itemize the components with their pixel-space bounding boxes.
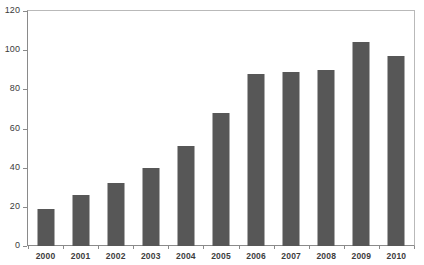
bar [248, 74, 265, 246]
x-axis-tick-mark [203, 246, 204, 249]
bar [283, 72, 300, 246]
bar [177, 146, 194, 246]
x-axis-tick: 2005 [203, 246, 238, 265]
bar-slot [203, 11, 238, 246]
x-axis-tick-mark [414, 246, 415, 249]
bar-slot [63, 11, 98, 246]
x-axis-tick-mark [309, 246, 310, 249]
x-axis-tick-label: 2010 [379, 251, 414, 262]
bar [37, 209, 54, 246]
x-axis-tick-label: 2008 [309, 251, 344, 262]
y-axis-tick-mark [23, 50, 27, 51]
x-axis-tick: 2000 [28, 246, 63, 265]
x-axis-tick-label: 2002 [98, 251, 133, 262]
bar [388, 56, 405, 246]
x-axis-tick-label: 2005 [203, 251, 238, 262]
x-axis-tick-label: 2003 [133, 251, 168, 262]
x-axis-tick-mark [133, 246, 134, 249]
bar [353, 42, 370, 246]
y-axis-tick-label: 60 [10, 123, 20, 134]
bar-slot [168, 11, 203, 246]
bar [318, 70, 335, 246]
bar-slot [344, 11, 379, 246]
x-axis-tick-mark [239, 246, 240, 249]
x-axis-tick: 2006 [239, 246, 274, 265]
y-axis-tick-label: 80 [10, 83, 20, 94]
bar-slot [309, 11, 344, 246]
x-axis-tick: 2009 [344, 246, 379, 265]
y-axis-tick-mark [23, 168, 27, 169]
x-axis-tick-label: 2006 [239, 251, 274, 262]
x-axis-tick: 2008 [309, 246, 344, 265]
x-axis-tick-mark [168, 246, 169, 249]
x-axis-tick: 2010 [379, 246, 414, 265]
x-axis: 2000200120022003200420052006200720082009… [28, 246, 414, 265]
x-axis-tick-mark [98, 246, 99, 249]
x-axis-tick: 2001 [63, 246, 98, 265]
x-axis-tick-mark [63, 246, 64, 249]
y-axis-tick-label: 20 [10, 201, 20, 212]
bar-slot [274, 11, 309, 246]
y-axis-tick-label: 120 [5, 5, 20, 16]
y-axis-tick-mark [23, 129, 27, 130]
bar-slot [28, 11, 63, 246]
y-axis-tick-mark [23, 89, 27, 90]
bar [142, 168, 159, 246]
bar-slot [133, 11, 168, 246]
x-axis-tick-mark [274, 246, 275, 249]
x-axis-tick-label: 2000 [28, 251, 63, 262]
x-axis-tick-mark [379, 246, 380, 249]
x-axis-tick-label: 2009 [344, 251, 379, 262]
bar-chart: 020406080100120 200020012002200320042005… [0, 0, 424, 265]
bar-slot [379, 11, 414, 246]
x-axis-tick: 2003 [133, 246, 168, 265]
y-axis-tick-mark [23, 207, 27, 208]
x-axis-tick-label: 2001 [63, 251, 98, 262]
x-axis-tick-label: 2007 [274, 251, 309, 262]
y-axis-tick-label: 100 [5, 44, 20, 55]
x-axis-tick-mark [344, 246, 345, 249]
bar-slot [98, 11, 133, 246]
x-axis-tick-mark [28, 246, 29, 249]
bars-layer [28, 11, 414, 246]
y-axis-tick-mark [23, 11, 27, 12]
y-axis-tick-label: 0 [15, 240, 20, 251]
x-axis-tick-label: 2004 [168, 251, 203, 262]
y-axis-tick-mark [23, 246, 27, 247]
x-axis-tick [414, 246, 415, 265]
x-axis-tick: 2007 [274, 246, 309, 265]
bar [212, 113, 229, 246]
bar [72, 195, 89, 246]
x-axis-tick: 2002 [98, 246, 133, 265]
bar-slot [239, 11, 274, 246]
y-axis: 020406080100120 [0, 0, 27, 265]
x-axis-tick: 2004 [168, 246, 203, 265]
y-axis-tick-label: 40 [10, 162, 20, 173]
bar [107, 183, 124, 246]
